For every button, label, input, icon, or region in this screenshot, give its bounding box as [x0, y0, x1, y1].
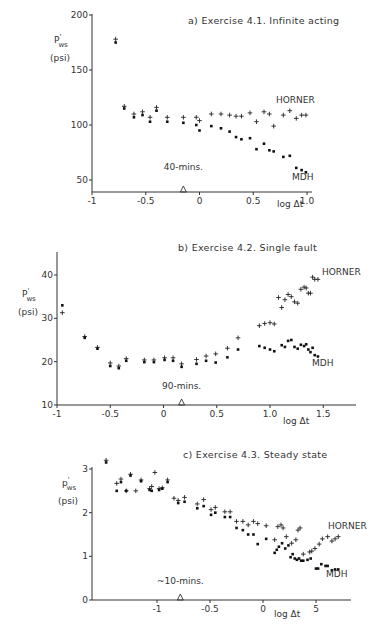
data-point-dot — [141, 114, 144, 117]
data-point-plus — [310, 275, 315, 280]
y-tick-label: 0 — [82, 595, 88, 605]
data-point-dot — [220, 127, 223, 130]
data-point-dot — [284, 346, 287, 349]
y-tick-label: 10 — [42, 400, 54, 410]
data-point-plus — [60, 310, 65, 315]
data-point-plus — [281, 113, 286, 118]
data-point-dot — [247, 533, 250, 536]
y-tick-label: 200 — [71, 10, 88, 20]
data-point-plus — [333, 537, 338, 542]
y-tick-label: 20 — [42, 357, 54, 367]
data-point-plus — [119, 477, 124, 482]
data-point-plus — [307, 550, 312, 555]
data-point-plus — [209, 507, 214, 512]
data-point-dot — [196, 507, 199, 510]
data-point-dot — [242, 529, 245, 532]
data-point-dot — [275, 548, 278, 551]
data-point-plus — [140, 110, 145, 115]
data-point-plus — [165, 115, 170, 120]
data-point-dot — [237, 348, 240, 351]
data-point-dot — [313, 354, 316, 357]
data-point-dot — [114, 41, 117, 44]
x-tick-label: 1.5 — [316, 409, 330, 419]
y-tick-label: 40 — [42, 270, 54, 280]
data-point-dot — [265, 538, 268, 541]
data-point-dot — [281, 542, 284, 545]
data-point-plus — [234, 519, 239, 524]
x-tick-label: -0.5 — [201, 604, 219, 614]
legend-mdh: MDH — [312, 358, 333, 368]
x-tick-label: 0 — [161, 409, 167, 419]
data-point-dot — [228, 130, 231, 133]
data-point-plus — [262, 321, 267, 326]
data-point-plus — [179, 362, 184, 367]
data-point-dot — [306, 559, 309, 562]
data-point-plus — [223, 509, 228, 514]
data-point-dot — [293, 346, 296, 349]
x-tick-label: 5 — [313, 604, 319, 614]
data-point-plus — [108, 361, 113, 366]
data-point-plus — [257, 323, 262, 328]
triangle-marker-icon — [177, 594, 183, 600]
data-point-plus — [172, 496, 177, 501]
data-point-plus — [296, 528, 301, 533]
data-point-dot — [195, 363, 198, 366]
data-point-dot — [273, 350, 276, 353]
data-point-plus — [225, 346, 230, 351]
data-point-dot — [305, 343, 308, 346]
y-axis-unit: (psi) — [58, 496, 78, 506]
data-point-dot — [235, 136, 238, 139]
x-tick-label: -1 — [88, 196, 97, 206]
data-point-plus — [271, 124, 276, 129]
data-point-plus — [272, 537, 277, 542]
data-point-dot — [177, 502, 180, 505]
data-point-plus — [302, 285, 307, 290]
data-point-plus — [294, 537, 299, 542]
y-tick-label: 50 — [77, 175, 89, 185]
data-point-dot — [158, 489, 161, 492]
data-point-dot — [150, 490, 153, 493]
x-axis-label: log Δt — [277, 199, 304, 209]
data-point-dot — [133, 116, 136, 119]
data-point-plus — [298, 526, 303, 531]
y-axis-label: p'ws — [62, 476, 76, 492]
data-point-plus — [276, 295, 281, 300]
y-tick-label: 150 — [71, 65, 88, 75]
data-point-plus — [255, 521, 260, 526]
data-point-plus — [204, 354, 209, 359]
data-point-dot — [252, 533, 255, 536]
data-point-dot — [123, 107, 126, 110]
data-point-dot — [326, 565, 329, 568]
data-point-dot — [307, 348, 310, 351]
data-point-plus — [153, 470, 158, 475]
data-point-dot — [183, 500, 186, 503]
data-point-plus — [272, 322, 277, 327]
data-point-plus — [317, 542, 322, 547]
data-point-dot — [155, 109, 158, 112]
data-point-plus — [289, 541, 294, 546]
data-point-plus — [286, 292, 291, 297]
data-point-dot — [287, 544, 290, 547]
time-annotation: 40-mins. — [164, 162, 203, 172]
series-mdh — [105, 461, 340, 571]
data-point-dot — [295, 167, 298, 170]
y-tick-label: 2 — [82, 508, 88, 518]
y-axis-unit: (psi) — [50, 53, 70, 63]
series-horner — [104, 458, 341, 556]
data-point-dot — [224, 516, 227, 519]
data-point-dot — [309, 557, 312, 560]
data-point-dot — [268, 149, 271, 152]
legend-horner: HORNER — [328, 521, 367, 531]
data-point-plus — [325, 534, 330, 539]
data-point-dot — [96, 347, 99, 350]
series-mdh — [61, 304, 319, 369]
data-point-dot — [161, 487, 164, 490]
data-point-dot — [125, 490, 128, 493]
x-tick-label: -1 — [53, 409, 62, 419]
data-point-dot — [214, 361, 217, 364]
data-point-plus — [289, 294, 294, 299]
data-point-dot — [205, 360, 208, 363]
figure-three-scatter-plots: 50100150200-1-0.500.51.0a) Exercise 4.1.… — [0, 0, 378, 634]
x-tick-label: 0 — [197, 196, 203, 206]
data-point-plus — [308, 291, 313, 296]
